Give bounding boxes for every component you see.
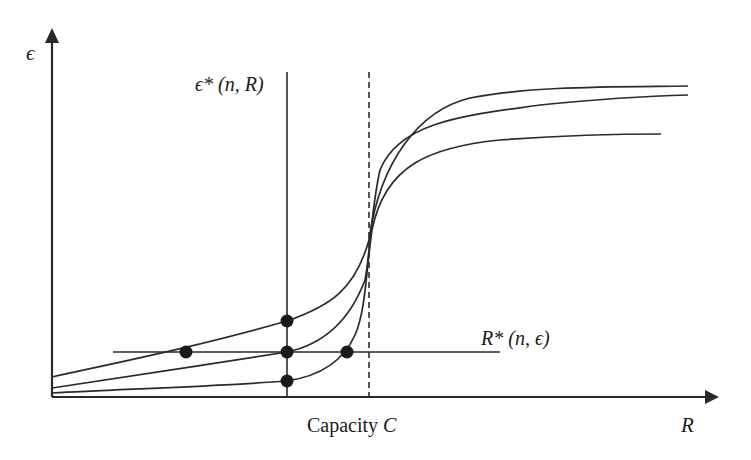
- x-axis-arrow-icon: [705, 390, 719, 404]
- point-large-n-at-r-star: [341, 346, 354, 359]
- point-medium-n-intersection: [281, 346, 294, 359]
- diagram-canvas: ϵ R ϵ* (n, R) R* (n, ϵ) Capacity C: [0, 0, 751, 460]
- capacity-diagram: ϵ R ϵ* (n, R) R* (n, ϵ) Capacity C: [0, 0, 751, 460]
- error-curves: [52, 86, 688, 393]
- r-star-label: R* (n, ϵ): [480, 327, 550, 350]
- capacity-label: Capacity C: [307, 414, 397, 437]
- point-small-n-at-epsilon-star: [281, 315, 294, 328]
- x-axis-label: R: [680, 413, 694, 437]
- capacity-label-prefix: Capacity: [307, 414, 383, 437]
- point-large-n-at-epsilon-star: [281, 375, 294, 388]
- curve-small-n: [52, 86, 688, 377]
- curve-large-n: [52, 134, 661, 393]
- capacity-label-symbol: C: [383, 414, 397, 436]
- marked-points: [180, 315, 354, 388]
- y-axis-arrow-icon: [45, 28, 59, 43]
- y-axis-label: ϵ: [26, 41, 36, 65]
- axes: [45, 28, 719, 404]
- epsilon-star-label: ϵ* (n, R): [195, 73, 264, 96]
- point-small-n-at-r-star: [180, 346, 193, 359]
